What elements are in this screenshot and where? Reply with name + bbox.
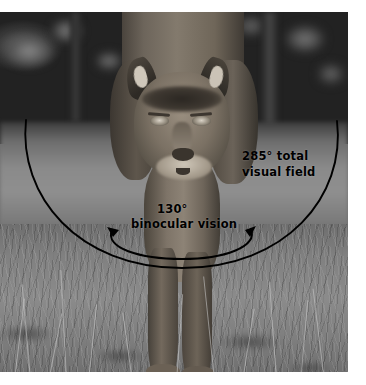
foliage-light-gap <box>6 36 52 66</box>
cougar-brow-marking <box>142 86 222 112</box>
foliage-light-gap <box>286 26 324 52</box>
tree-trunk <box>70 12 82 122</box>
cougar-right-eye <box>192 116 211 126</box>
cougar-right-paw <box>182 366 214 372</box>
cougar-mouth <box>176 168 190 175</box>
cougar-left-eye <box>150 116 169 126</box>
outer-arc-label-line1: 285° total <box>242 148 316 164</box>
cougar <box>96 12 268 372</box>
foliage-light-gap <box>318 64 344 84</box>
cougar-photograph <box>0 12 348 372</box>
inner-arc-label-degrees: 130° <box>157 202 188 217</box>
cougar-left-paw <box>146 364 180 372</box>
outer-arc-label-line2: visual field <box>242 164 316 180</box>
cougar-front-left-leg <box>148 248 178 372</box>
figure-canvas: 285° total visual field 130° binocular v… <box>0 0 366 385</box>
inner-arc-label-text: binocular vision <box>131 217 237 232</box>
outer-arc-label: 285° total visual field <box>242 148 316 180</box>
cougar-nose <box>172 148 194 161</box>
